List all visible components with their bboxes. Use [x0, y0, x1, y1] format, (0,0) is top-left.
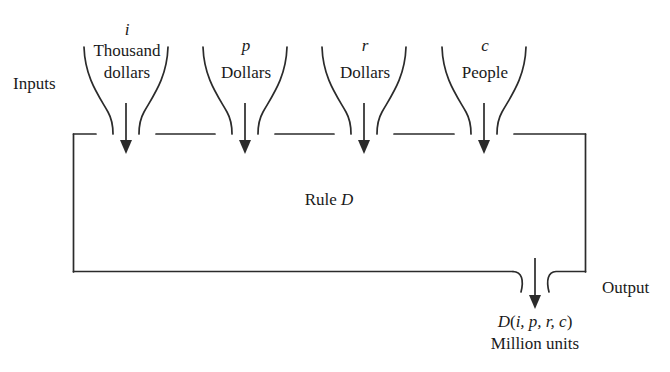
funnel-variable-i: i — [125, 20, 130, 40]
funnel-c-arrow — [478, 103, 490, 154]
funnel-r-right-wall — [377, 47, 406, 134]
funnel-c-right-wall — [497, 47, 526, 134]
output-expression: D(i, p, r, c) — [498, 312, 573, 332]
output-expression-close: ) — [567, 312, 573, 331]
rule-prefix: Rule — [305, 190, 341, 209]
rule-symbol: D — [341, 190, 353, 209]
funnel-unit-i-line2: dollars — [104, 63, 150, 83]
output-units: Million units — [491, 334, 579, 354]
rule-label: Rule D — [305, 190, 354, 210]
inputs-label: Inputs — [13, 74, 56, 94]
funnel-r-left-wall — [322, 47, 351, 134]
spout-right-lip — [548, 272, 586, 293]
funnel-variable-r: r — [362, 36, 369, 56]
output-expression-name: D — [498, 312, 510, 331]
figure-canvas: Inputs Output i Thousand dollars p Dolla… — [0, 0, 670, 372]
funnel-variable-p: p — [242, 36, 251, 56]
funnel-p-left-wall — [203, 47, 232, 134]
funnel-i-arrow — [120, 103, 132, 154]
funnel-c-left-wall — [442, 47, 471, 134]
funnel-r-arrow — [358, 103, 370, 154]
output-label: Output — [602, 278, 649, 298]
funnel-unit-p-line1: Dollars — [221, 63, 271, 83]
funnel-p-arrow — [239, 103, 251, 154]
funnel-unit-i-line1: Thousand — [93, 41, 160, 61]
funnel-p-right-wall — [258, 47, 287, 134]
output-arrow — [529, 258, 541, 309]
funnel-unit-c-line1: People — [462, 63, 508, 83]
spout-left-lip — [513, 272, 522, 293]
output-spout — [513, 272, 586, 293]
output-expression-args: i, p, r, c — [516, 312, 567, 331]
funnel-variable-c: c — [481, 36, 489, 56]
funnel-unit-r-line1: Dollars — [340, 63, 390, 83]
